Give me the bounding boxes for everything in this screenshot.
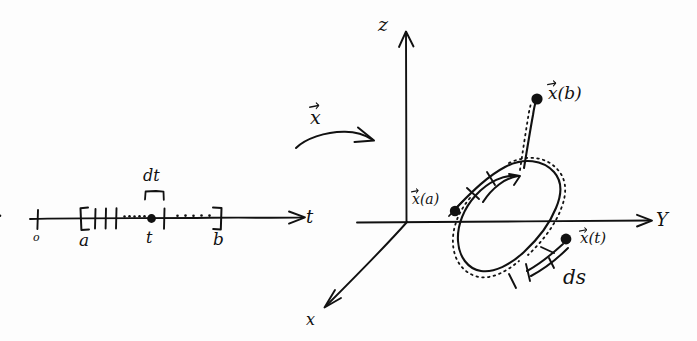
dt-right-tick xyxy=(164,209,165,229)
y-axis-line xyxy=(357,221,650,223)
mapping-vector-wrap: x xyxy=(310,108,321,127)
label-dt: dt xyxy=(143,168,160,184)
point-xb-marker xyxy=(531,93,542,104)
xb-letter: x xyxy=(548,83,558,103)
label-ds: ds xyxy=(563,267,586,287)
xt-vector-wrap: x xyxy=(580,231,588,246)
label-xa: x (a) xyxy=(412,192,439,206)
curve-path-main xyxy=(455,161,560,271)
label-origin: o xyxy=(33,232,40,243)
label-xt: x (t) xyxy=(580,231,606,246)
x-axis-line xyxy=(327,222,407,305)
space-axes-group xyxy=(325,32,653,308)
label-b: b xyxy=(213,231,224,248)
origin-tick xyxy=(37,210,38,229)
mapping-vector-letter: x xyxy=(310,106,321,128)
label-t-point: t xyxy=(146,230,152,246)
curve-dotted-companion-lower xyxy=(453,198,519,277)
label-z-axis: z xyxy=(378,15,388,34)
label-y-axis: Y xyxy=(656,211,668,229)
mapping-arrow-group xyxy=(296,128,374,149)
point-t-marker xyxy=(147,214,156,223)
label-x-axis: x xyxy=(306,312,315,328)
space-curve-group xyxy=(449,93,571,288)
xa-arg: (a) xyxy=(420,191,439,207)
t-axis-line xyxy=(30,217,303,219)
label-a: a xyxy=(79,232,89,249)
dt-brace xyxy=(145,191,164,200)
xb-arg: (b) xyxy=(558,83,582,103)
label-mapping-vector: x xyxy=(310,108,321,127)
parameter-axis-group xyxy=(0,191,305,230)
xt-letter: x xyxy=(580,229,588,247)
xt-arg: (t) xyxy=(588,229,606,247)
curve-tick-4 xyxy=(509,274,516,288)
point-xt-marker xyxy=(561,234,572,245)
curve-tick-3 xyxy=(541,247,554,253)
label-xb: x (b) xyxy=(548,85,582,102)
interval-tick-1 xyxy=(95,209,96,229)
mapping-curved-arrow xyxy=(296,132,372,148)
xa-vector-wrap: x xyxy=(412,192,420,206)
label-t-axis: t xyxy=(306,208,313,226)
ds-end-tick-left xyxy=(526,264,530,281)
curve-path-loop-cross xyxy=(483,176,518,202)
interval-tick-3 xyxy=(116,208,117,228)
xb-vector-wrap: x xyxy=(548,85,558,102)
xa-letter: x xyxy=(412,191,420,207)
z-axis-line xyxy=(406,33,407,222)
sketch-canvas xyxy=(0,0,697,341)
hand-drawn-figure: o a t b dt t x z Y x x (a) xyxy=(0,0,697,341)
